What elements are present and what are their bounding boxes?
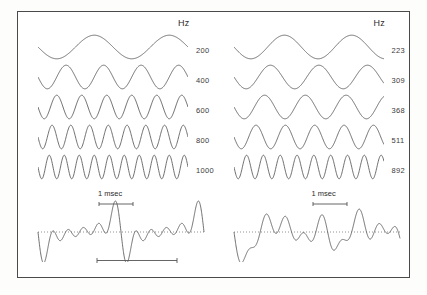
component-wave-892hz	[234, 154, 384, 180]
frequency-label-368hz: 368	[392, 106, 405, 115]
complex-trace	[234, 209, 400, 262]
frequency-label-600hz: 600	[196, 106, 209, 115]
frequency-label-800hz: 800	[196, 136, 209, 145]
component-wave-368hz	[234, 94, 384, 120]
component-wave-309hz	[234, 64, 384, 90]
component-wave-400hz	[38, 64, 188, 90]
complex-trace	[38, 201, 204, 262]
harmonic-complex-panel: Hz 2004006008001000 1 msec	[18, 12, 214, 277]
complex-waveform-left	[36, 198, 208, 262]
hz-header-left: Hz	[178, 18, 189, 28]
time-marker-label-right: 1 msec	[312, 189, 336, 198]
component-wave-511hz	[234, 124, 384, 150]
frequency-label-892hz: 892	[392, 166, 405, 175]
frequency-label-1000hz: 1000	[196, 166, 214, 175]
component-wave-800hz	[38, 124, 188, 150]
frequency-label-200hz: 200	[196, 46, 209, 55]
component-wave-1000hz	[38, 154, 188, 180]
time-marker-label-left: 1 msec	[98, 189, 122, 198]
frequency-label-511hz: 511	[392, 136, 405, 145]
complex-waveform-right	[232, 198, 404, 262]
figure-frame: Hz 2004006008001000 1 msec	[17, 11, 410, 278]
figure-container: Hz 2004006008001000 1 msec	[0, 0, 427, 295]
component-wave-200hz	[38, 34, 188, 60]
frequency-label-223hz: 223	[392, 46, 405, 55]
frequency-label-400hz: 400	[196, 76, 209, 85]
frequency-label-309hz: 309	[392, 76, 405, 85]
period-scale-bar-left	[96, 257, 178, 264]
inharmonic-complex-panel: Hz 223309368511892 1 msec	[214, 12, 410, 277]
component-wave-223hz	[234, 34, 384, 60]
component-wave-600hz	[38, 94, 188, 120]
hz-header-right: Hz	[374, 18, 385, 28]
